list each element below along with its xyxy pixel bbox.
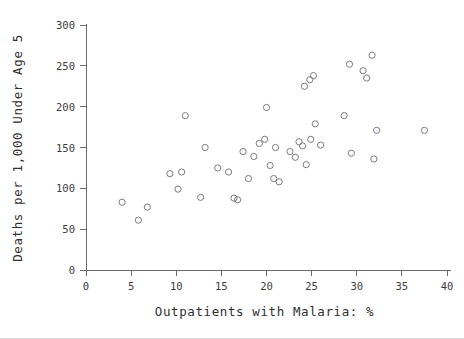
y-tick-label: 150 [56, 142, 75, 154]
y-tick-label: 200 [56, 101, 75, 113]
data-point [276, 179, 282, 185]
data-point [421, 127, 427, 133]
data-point [240, 148, 246, 154]
data-point [225, 169, 231, 175]
data-point [167, 171, 173, 177]
data-point [348, 150, 354, 156]
data-point [256, 140, 262, 146]
data-point [303, 162, 309, 168]
data-point [374, 127, 380, 133]
data-point [267, 162, 273, 168]
data-point [292, 154, 298, 160]
data-point [215, 165, 221, 171]
scatter-chart: 050100150200250300 0510152025303540 Outp… [0, 0, 464, 339]
data-point [360, 68, 366, 74]
y-tick-label: 300 [56, 19, 75, 31]
data-point [364, 75, 370, 81]
x-axis-title: Outpatients with Malaria: % [155, 304, 374, 319]
plot-area: 050100150200250300 0510152025303540 Outp… [0, 0, 464, 339]
data-point [301, 83, 307, 89]
data-point [198, 194, 204, 200]
data-point [251, 153, 257, 159]
data-point [175, 186, 181, 192]
y-axis-ticks: 050100150200250300 [56, 19, 86, 276]
data-point [179, 169, 185, 175]
x-tick-label: 5 [128, 280, 134, 292]
data-point [262, 136, 268, 142]
data-point [272, 144, 278, 150]
x-tick-label: 0 [83, 280, 89, 292]
data-point [263, 104, 269, 110]
data-point [371, 156, 377, 162]
data-point [310, 73, 316, 79]
data-point [300, 143, 306, 149]
y-axis-title: Deaths per 1,000 Under Age 5 [10, 34, 25, 262]
data-point [287, 148, 293, 154]
y-tick-label: 100 [56, 182, 75, 194]
y-tick-label: 0 [69, 264, 75, 276]
x-tick-label: 20 [260, 280, 273, 292]
data-point [231, 195, 237, 201]
x-tick-label: 25 [305, 280, 318, 292]
data-points [119, 52, 428, 223]
data-point [296, 139, 302, 145]
data-point [182, 113, 188, 119]
data-point [318, 142, 324, 148]
data-point [369, 52, 375, 58]
data-point [341, 113, 347, 119]
data-point [245, 175, 251, 181]
data-point [144, 204, 150, 210]
x-tick-label: 40 [441, 280, 454, 292]
x-axis-ticks: 0510152025303540 [83, 270, 453, 292]
data-point [308, 136, 314, 142]
data-point [119, 199, 125, 205]
y-tick-label: 250 [56, 60, 75, 72]
data-point [235, 197, 241, 203]
x-tick-label: 15 [215, 280, 228, 292]
data-point [202, 144, 208, 150]
data-point [312, 121, 318, 127]
y-tick-label: 50 [62, 223, 75, 235]
data-point [307, 77, 313, 83]
x-tick-label: 35 [396, 280, 409, 292]
data-point [135, 217, 141, 223]
data-point [346, 61, 352, 67]
x-tick-label: 10 [170, 280, 183, 292]
x-tick-label: 30 [350, 280, 363, 292]
